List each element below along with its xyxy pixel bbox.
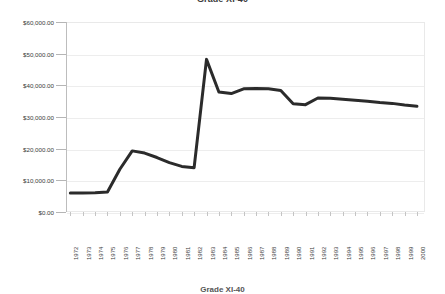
x-axis-tick bbox=[169, 212, 170, 216]
x-axis-tick bbox=[207, 212, 208, 216]
x-axis-label-text: 1999 bbox=[408, 247, 414, 260]
x-axis-tick bbox=[132, 212, 133, 216]
x-axis-tick bbox=[392, 212, 393, 216]
y-axis-tick bbox=[56, 54, 66, 55]
x-axis-label-text: 1993 bbox=[333, 247, 339, 260]
x-axis-label-text: 1973 bbox=[86, 247, 92, 260]
x-axis-label-text: 1992 bbox=[321, 247, 327, 260]
x-axis-tick bbox=[107, 212, 108, 216]
y-axis-tick bbox=[56, 212, 66, 213]
x-axis-label-text: 1979 bbox=[160, 247, 166, 260]
x-axis-tick bbox=[293, 212, 294, 216]
x-axis-label-text: 2000 bbox=[420, 247, 426, 260]
series-line-group bbox=[66, 22, 425, 212]
y-axis-tick bbox=[56, 180, 66, 181]
y-axis-label: $0.00 bbox=[2, 209, 54, 216]
x-axis-tick bbox=[281, 212, 282, 216]
x-axis-label-text: 1974 bbox=[98, 247, 104, 260]
x-axis-label-text: 1988 bbox=[271, 247, 277, 260]
x-axis-label-text: 1995 bbox=[358, 247, 364, 260]
x-axis-tick bbox=[194, 212, 195, 216]
x-axis-label-text: 1972 bbox=[73, 247, 79, 260]
x-axis-tick bbox=[417, 212, 418, 216]
x-axis-label-text: 1984 bbox=[222, 247, 228, 260]
x-axis-tick bbox=[306, 212, 307, 216]
y-axis-label: $30,000.00 bbox=[2, 114, 54, 121]
x-axis-tick bbox=[405, 212, 406, 216]
x-axis-tick bbox=[318, 212, 319, 216]
legend-label: Grade XI-40 bbox=[0, 285, 445, 294]
x-axis-tick bbox=[182, 212, 183, 216]
y-axis-tick bbox=[56, 85, 66, 86]
y-axis-label: $40,000.00 bbox=[2, 82, 54, 89]
x-axis-tick bbox=[380, 212, 381, 216]
x-axis-tick bbox=[355, 212, 356, 216]
y-axis-tick bbox=[56, 117, 66, 118]
y-axis-tick bbox=[56, 149, 66, 150]
x-axis-tick bbox=[70, 212, 71, 216]
x-axis-label-text: 1981 bbox=[185, 247, 191, 260]
y-axis-tick bbox=[56, 22, 66, 23]
x-axis-label-text: 1996 bbox=[370, 247, 376, 260]
chart-title: Grade XI-40 bbox=[0, 0, 445, 4]
x-axis-label-text: 1983 bbox=[210, 247, 216, 260]
x-axis-label-text: 1985 bbox=[234, 247, 240, 260]
series-line bbox=[70, 59, 417, 193]
y-axis-label: $10,000.00 bbox=[2, 177, 54, 184]
x-axis-tick bbox=[231, 212, 232, 216]
x-axis-label-text: 1990 bbox=[296, 247, 302, 260]
x-axis-label-text: 1986 bbox=[247, 247, 253, 260]
x-axis-label-text: 1982 bbox=[197, 247, 203, 260]
x-axis-label-text: 1997 bbox=[383, 247, 389, 260]
x-axis-tick bbox=[120, 212, 121, 216]
x-axis-label-text: 1975 bbox=[110, 247, 116, 260]
x-axis-tick bbox=[95, 212, 96, 216]
x-axis-tick bbox=[256, 212, 257, 216]
x-axis-tick bbox=[343, 212, 344, 216]
y-axis-label: $60,000.00 bbox=[2, 19, 54, 26]
x-axis-tick bbox=[244, 212, 245, 216]
x-axis-tick bbox=[330, 212, 331, 216]
x-axis-label-text: 1994 bbox=[346, 247, 352, 260]
x-axis-tick bbox=[268, 212, 269, 216]
x-axis-label-text: 1989 bbox=[284, 247, 290, 260]
x-axis-label-text: 1998 bbox=[395, 247, 401, 260]
x-axis-tick bbox=[145, 212, 146, 216]
x-axis-label-text: 1991 bbox=[309, 247, 315, 260]
x-axis-tick bbox=[83, 212, 84, 216]
x-axis-label-text: 1976 bbox=[123, 247, 129, 260]
x-axis-label-text: 1980 bbox=[172, 247, 178, 260]
y-axis-label: $20,000.00 bbox=[2, 145, 54, 152]
x-axis-label-text: 1987 bbox=[259, 247, 265, 260]
x-axis-tick bbox=[157, 212, 158, 216]
y-axis-label: $50,000.00 bbox=[2, 50, 54, 57]
x-axis-label-text: 1977 bbox=[135, 247, 141, 260]
x-axis-tick bbox=[367, 212, 368, 216]
x-axis-label-text: 1978 bbox=[148, 247, 154, 260]
x-axis-tick bbox=[219, 212, 220, 216]
